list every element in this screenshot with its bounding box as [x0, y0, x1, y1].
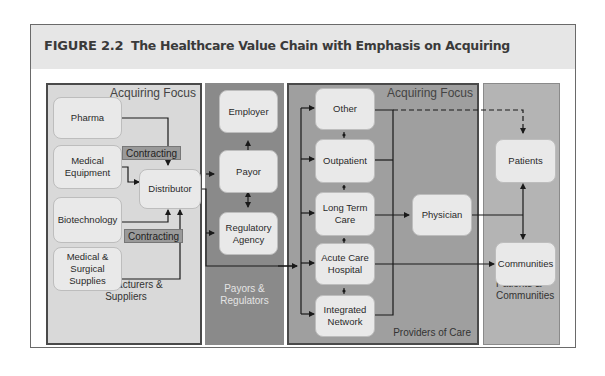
box-pharma: Pharma [53, 97, 122, 139]
box-communities: Communities [495, 242, 556, 286]
box-long-term-care: Long Term Care [315, 192, 375, 236]
box-other: Other [315, 88, 375, 130]
box-physician: Physician [412, 194, 472, 236]
box-regulatory-agency: Regulatory Agency [219, 212, 278, 255]
tag-contracting-top: Contracting [122, 146, 181, 160]
tag-contracting-bottom: Contracting [124, 229, 183, 243]
box-medical-surgical-supplies: Medical & Surgical Supplies [53, 247, 122, 291]
box-biotechnology: Biotechnology [53, 197, 122, 243]
box-outpatient: Outpatient [315, 139, 375, 183]
box-distributor: Distributor [139, 169, 201, 209]
box-payor: Payor [219, 150, 278, 193]
box-employer: Employer [219, 90, 278, 133]
box-integrated-network: Integrated Network [315, 295, 375, 337]
box-medical-equipment: Medical Equipment [53, 145, 122, 189]
box-acute-care-hospital: Acute Care Hospital [315, 243, 375, 285]
box-patients: Patients [495, 139, 556, 183]
